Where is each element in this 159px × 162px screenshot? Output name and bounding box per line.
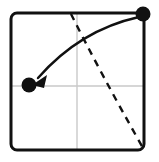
figure-root (0, 0, 159, 162)
equilibrium-point-top-right (136, 7, 151, 22)
phase-plane-figure (0, 0, 159, 162)
equilibrium-point-left (22, 78, 37, 93)
